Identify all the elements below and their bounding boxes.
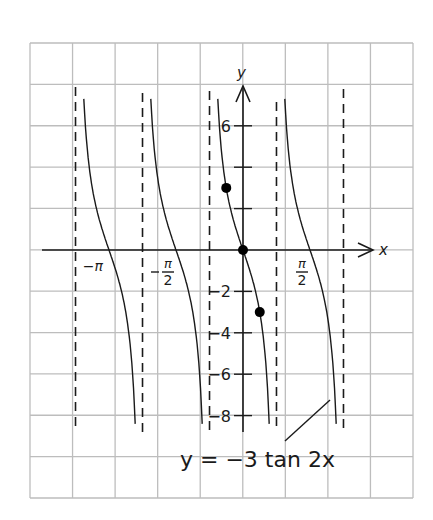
- plotted-point: [238, 245, 248, 255]
- y-tick-label: −4: [207, 324, 231, 343]
- y-axis-ticks: 6−2−4−6−8: [207, 117, 252, 426]
- y-tick-label: −6: [207, 365, 231, 384]
- graph-plot: x y 6−2−4−6−8 −ππ2π2 y = −3 tan 2x: [0, 0, 433, 520]
- svg-text:2: 2: [298, 272, 307, 288]
- svg-text:2: 2: [164, 272, 173, 288]
- plotted-point: [221, 183, 231, 193]
- label-leader-line: [285, 400, 330, 441]
- x-axis-label: x: [378, 241, 388, 259]
- x-tick-label-fraction: π2: [151, 256, 174, 288]
- x-tick-label: −π: [83, 258, 104, 274]
- curve-branch: [151, 99, 202, 424]
- svg-text:π: π: [298, 256, 306, 271]
- y-tick-label: −8: [207, 407, 231, 426]
- y-axis-label: y: [236, 64, 247, 82]
- svg-text:π: π: [164, 256, 172, 271]
- y-tick-label: −2: [207, 282, 231, 301]
- plotted-point: [255, 307, 265, 317]
- function-equation-label: y = −3 tan 2x: [180, 447, 335, 472]
- y-tick-label: 6: [221, 117, 231, 136]
- x-axis: x: [42, 241, 388, 259]
- x-tick-label-fraction: π2: [296, 256, 308, 288]
